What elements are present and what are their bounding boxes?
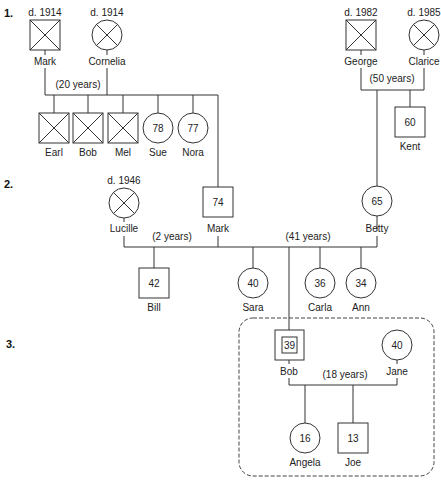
person-mel[interactable] — [108, 113, 138, 143]
marriage-duration-mark-lucille: (2 years) — [152, 231, 191, 242]
age-nora: 77 — [187, 123, 199, 134]
name-mel: Mel — [115, 147, 131, 158]
age-kent: 60 — [404, 117, 416, 128]
genogram: 1. 2. 3. d. 1914 Mark d. 1914 Cornelia (… — [0, 0, 441, 494]
person-mark-g2[interactable]: 74 — [203, 187, 233, 217]
person-angela[interactable]: 16 — [290, 423, 320, 453]
person-lucille[interactable] — [109, 188, 139, 218]
person-carla[interactable]: 36 — [305, 268, 335, 298]
name-mark-g1: Mark — [34, 56, 57, 67]
name-carla: Carla — [308, 302, 332, 313]
name-angela: Angela — [289, 457, 321, 468]
name-jane: Jane — [386, 366, 408, 377]
person-bob-g3[interactable]: 39 — [275, 330, 304, 360]
age-betty: 65 — [371, 196, 383, 207]
person-bob-g1[interactable] — [73, 113, 103, 143]
marriage-duration-george-clarice: (50 years) — [369, 73, 414, 84]
death-note-cornelia: d. 1914 — [90, 7, 124, 18]
age-sue: 78 — [152, 123, 164, 134]
person-jane[interactable]: 40 — [382, 330, 412, 360]
person-george[interactable] — [346, 20, 376, 50]
name-sue: Sue — [149, 147, 167, 158]
person-mark-g1[interactable] — [30, 20, 60, 50]
person-sara[interactable]: 40 — [238, 268, 268, 298]
name-cornelia: Cornelia — [88, 56, 126, 67]
name-bill: Bill — [147, 302, 160, 313]
name-earl: Earl — [45, 147, 63, 158]
age-carla: 36 — [314, 278, 326, 289]
age-ann: 34 — [355, 278, 367, 289]
name-ann: Ann — [352, 302, 370, 313]
name-joe: Joe — [345, 457, 362, 468]
generation-label-2: 2. — [4, 178, 13, 190]
name-bob-g3: Bob — [280, 366, 298, 377]
name-sara: Sara — [242, 302, 264, 313]
person-cornelia[interactable] — [92, 20, 122, 50]
person-kent[interactable]: 60 — [395, 107, 425, 137]
person-bill[interactable]: 42 — [139, 268, 169, 298]
person-ann[interactable]: 34 — [346, 268, 376, 298]
age-mark-g2: 74 — [212, 197, 224, 208]
name-clarice: Clarice — [408, 56, 440, 67]
age-bob-g3: 39 — [284, 340, 296, 351]
name-betty: Betty — [366, 223, 389, 234]
person-clarice[interactable] — [409, 20, 439, 50]
age-bill: 42 — [148, 278, 160, 289]
age-angela: 16 — [299, 433, 311, 444]
person-nora[interactable]: 77 — [178, 113, 208, 143]
death-note-mark-g1: d. 1914 — [28, 7, 62, 18]
name-kent: Kent — [400, 141, 421, 152]
name-lucille: Lucille — [110, 223, 139, 234]
death-note-george: d. 1982 — [344, 7, 378, 18]
name-nora: Nora — [182, 147, 204, 158]
age-joe: 13 — [347, 433, 359, 444]
death-note-lucille: d. 1946 — [107, 175, 141, 186]
generation-label-1: 1. — [4, 7, 13, 19]
age-jane: 40 — [391, 340, 403, 351]
name-bob-g1: Bob — [79, 147, 97, 158]
name-george: George — [344, 56, 378, 67]
person-sue[interactable]: 78 — [143, 113, 173, 143]
marriage-duration-mark-cornelia: (20 years) — [55, 79, 100, 90]
marriage-duration-bob-jane: (18 years) — [322, 369, 367, 380]
death-note-clarice: d. 1985 — [407, 7, 441, 18]
generation-label-3: 3. — [6, 338, 15, 350]
marriage-duration-mark-betty: (41 years) — [285, 231, 330, 242]
name-mark-g2: Mark — [207, 223, 230, 234]
person-earl[interactable] — [39, 113, 69, 143]
age-sara: 40 — [247, 278, 259, 289]
person-betty[interactable]: 65 — [362, 186, 392, 216]
person-joe[interactable]: 13 — [338, 423, 368, 453]
